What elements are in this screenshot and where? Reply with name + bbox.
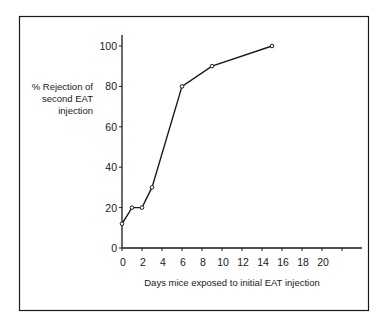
y-tick-label: 40	[105, 161, 117, 173]
x-tick-label: 6	[180, 256, 186, 268]
x-tick-label: 10	[217, 256, 229, 268]
y-tick-label: 20	[105, 202, 117, 214]
y-tick-label: 60	[105, 121, 117, 133]
data-point-marker	[270, 44, 274, 48]
x-tick-label: 0	[120, 256, 126, 268]
x-tick-label: 4	[160, 256, 166, 268]
data-point-marker	[140, 206, 144, 210]
x-tick-label: 8	[200, 256, 206, 268]
x-axis-title: Days mice exposed to initial EAT injecti…	[144, 277, 319, 288]
x-tick-label: 20	[317, 256, 329, 268]
y-tick-label: 100	[99, 40, 117, 52]
data-series	[120, 44, 274, 225]
chart: 020406080100 02468101214161820 % Rejecti…	[0, 0, 383, 325]
x-tick-label: 2	[140, 256, 146, 268]
data-point-marker	[130, 206, 134, 210]
y-axis: 020406080100	[99, 35, 122, 254]
data-point-marker	[120, 222, 124, 226]
x-tick-label: 18	[297, 256, 309, 268]
y-axis-title-line-2: second EAT	[42, 93, 93, 104]
x-tick-label: 12	[237, 256, 249, 268]
y-tick-label: 0	[111, 242, 117, 254]
chart-frame	[20, 17, 369, 311]
data-point-marker	[210, 64, 214, 68]
data-point-marker	[150, 186, 154, 190]
x-tick-label: 16	[277, 256, 289, 268]
y-axis-title-line-3: injection	[58, 105, 93, 116]
x-tick-label: 14	[257, 256, 269, 268]
x-axis: 02468101214161820	[120, 248, 362, 268]
y-axis-title-line-1: % Rejection of	[32, 81, 94, 92]
y-tick-label: 80	[105, 80, 117, 92]
data-point-marker	[180, 85, 184, 89]
series-line	[122, 46, 272, 224]
